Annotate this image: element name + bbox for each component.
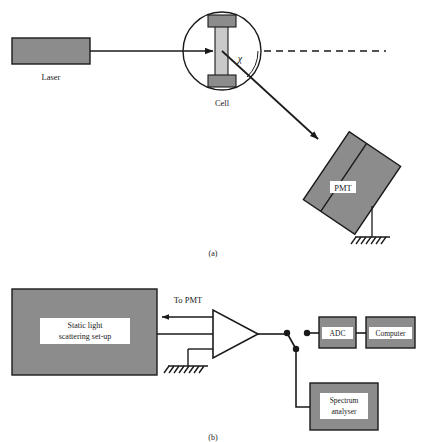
adc-module: ADC [319, 317, 356, 348]
laser-box [12, 38, 90, 64]
spectrum-analyser-label-line1: Spectrum [330, 396, 359, 405]
to-pmt-label: To PMT [174, 295, 203, 305]
panel-b: Static light scattering set-up To PMT [12, 289, 415, 442]
cell-label: Cell [215, 98, 230, 108]
cell-cap-top [208, 15, 236, 27]
scattered-beam [222, 51, 318, 139]
switch-to-spectrum-analyser-wire [296, 349, 310, 407]
figure-root: Laser Cell χ [0, 0, 424, 442]
computer-label: Computer [376, 329, 406, 338]
laser-label: Laser [42, 72, 61, 82]
amplifier-ground-symbol [164, 349, 213, 373]
light-scattering-schematic: Laser Cell χ [0, 0, 424, 442]
cell-cuvette-tube [215, 21, 228, 81]
adc-label: ADC [330, 329, 346, 338]
amplifier-triangle [213, 310, 258, 358]
spectrum-analyser-module: Spectrum analyser [310, 383, 378, 430]
panel-a-caption: (a) [209, 249, 218, 258]
cell-cap-bottom [208, 75, 236, 87]
selector-switch[interactable] [284, 330, 310, 352]
spectrum-analyser-label-line2: analyser [332, 407, 357, 416]
static-setup-label-line2: scattering set-up [59, 332, 112, 341]
scattering-angle-arc [247, 51, 258, 77]
panel-a: Laser Cell χ [12, 12, 401, 258]
panel-b-caption: (b) [208, 433, 218, 442]
static-setup-label-line1: Static light [68, 321, 104, 330]
pmt-label: PMT [334, 183, 352, 193]
static-light-scattering-setup: Static light scattering set-up [12, 289, 157, 375]
pmt-label-plate: PMT [330, 181, 356, 193]
computer-module: Computer [366, 317, 415, 348]
chi-angle-symbol: χ [237, 53, 243, 64]
